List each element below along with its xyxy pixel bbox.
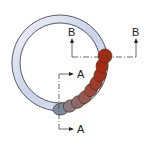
label-a-bottom: A (77, 123, 85, 135)
ring (12, 15, 108, 111)
label-b-right: B (132, 26, 139, 38)
label-a-top: A (77, 68, 85, 80)
arrow-up-icon (134, 38, 138, 43)
arrow-right-icon (69, 127, 74, 131)
arrow-up-icon (70, 38, 74, 43)
label-b-left: B (68, 26, 75, 38)
ring-weld-diagram: B B A A (0, 0, 146, 145)
arrow-right-icon (69, 72, 74, 76)
